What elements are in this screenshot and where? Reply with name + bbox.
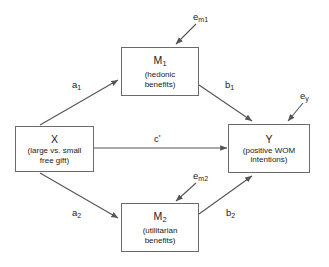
node-x: X (large vs. small free gift) bbox=[15, 126, 94, 172]
node-y-description: (positive WOM intentions) bbox=[241, 146, 297, 165]
node-m2-description: (utilitarian benefits) bbox=[141, 226, 180, 245]
error-label-em2: em2 bbox=[193, 171, 208, 184]
error-label-ey: ey bbox=[300, 91, 309, 104]
error-label-em1: em1 bbox=[193, 12, 208, 25]
error-arrow-ey bbox=[288, 103, 303, 121]
path-label-a2: a2 bbox=[72, 208, 81, 221]
node-x-symbol: X bbox=[51, 133, 58, 145]
node-m1-description: (hedonic benefits) bbox=[143, 70, 178, 89]
path-label-b2: b2 bbox=[226, 208, 235, 221]
error-arrow-em2 bbox=[176, 183, 196, 201]
node-y-symbol: Y bbox=[265, 133, 272, 145]
node-m1: M1 (hedonic benefits) bbox=[121, 47, 199, 96]
path-label-c-prime: c' bbox=[154, 133, 161, 144]
path-label-a1: a1 bbox=[72, 80, 81, 93]
node-m2-symbol: M2 bbox=[153, 210, 166, 226]
node-m1-symbol: M1 bbox=[153, 54, 166, 70]
node-y: Y (positive WOM intentions) bbox=[228, 124, 310, 173]
node-m2: M2 (utilitarian benefits) bbox=[121, 203, 199, 252]
path-diagram: M1 (hedonic benefits) X (large vs. small… bbox=[0, 0, 329, 267]
path-label-b1: b1 bbox=[225, 80, 234, 93]
node-x-description: (large vs. small free gift) bbox=[26, 146, 84, 165]
error-arrow-em1 bbox=[176, 24, 196, 44]
